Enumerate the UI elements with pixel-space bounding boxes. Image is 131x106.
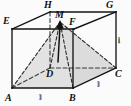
edge-fg [74, 12, 116, 29]
vertex-label-c: C [115, 69, 122, 79]
vertex-label-e: E [3, 16, 10, 26]
vertex-label-m: M [55, 10, 64, 20]
vertex-label-h: H [44, 0, 52, 10]
vertex-label-b: B [69, 93, 76, 103]
edge-length-label-ab: 1 [38, 94, 42, 102]
edge-length-label-bc: 1 [96, 81, 100, 89]
cube-figure: E H G M F D C A B 1 1 1 [0, 0, 131, 106]
edge-length-label-cg: 1 [117, 37, 121, 45]
cube-diagram-svg [0, 0, 131, 106]
vertex-label-f: F [69, 17, 76, 27]
vertex-label-d: D [46, 69, 53, 79]
vertex-label-g: G [106, 0, 113, 10]
edge-eh [12, 12, 50, 29]
vertex-label-a: A [5, 93, 12, 103]
